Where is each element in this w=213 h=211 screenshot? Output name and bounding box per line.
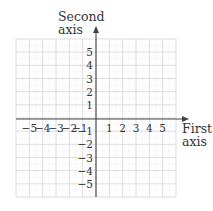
y-axis-title-line2: axis (58, 22, 83, 37)
x-tick-label: 5 (159, 122, 166, 134)
y-tick-label: −3 (78, 152, 93, 164)
x-axis-title-line2: axis (182, 134, 207, 149)
y-axis-arrow-icon (93, 26, 99, 33)
y-tick-label: 3 (86, 73, 93, 85)
y-tick-label: −4 (78, 165, 94, 177)
y-tick-label: 1 (86, 99, 93, 111)
y-tick-label: 5 (86, 46, 93, 58)
x-tick-label: 4 (146, 122, 153, 134)
y-tick-label: −1 (78, 125, 93, 137)
x-tick-labels: −5−4−3−2−112345 (22, 122, 166, 134)
x-tick-label: 3 (133, 122, 140, 134)
y-tick-label: −5 (78, 178, 93, 190)
x-tick-label: 2 (119, 122, 126, 134)
y-tick-label: 2 (86, 86, 93, 98)
y-tick-label: −2 (78, 138, 93, 150)
y-tick-label: 4 (86, 59, 93, 71)
x-tick-label: 1 (106, 122, 113, 134)
coordinate-plane: −5−4−3−2−112345 −5−4−3−2−112345 Second a… (0, 0, 213, 211)
